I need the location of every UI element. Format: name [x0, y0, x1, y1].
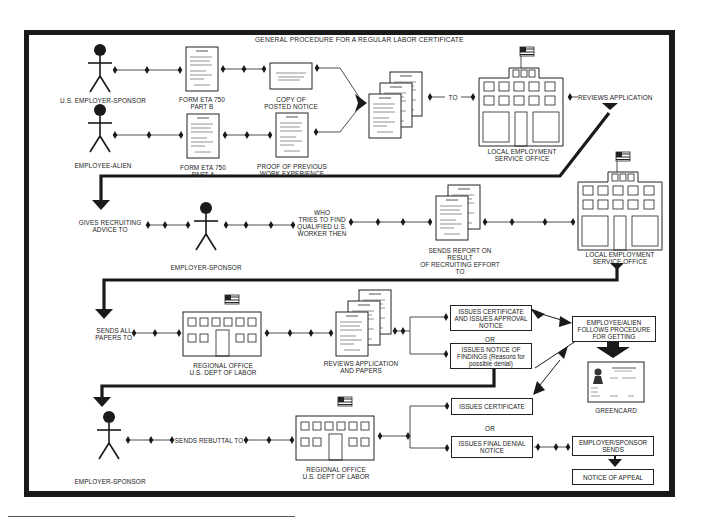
row2-local-office-icon	[578, 172, 662, 250]
greencard-icon	[588, 362, 644, 402]
posted-notice-icon	[270, 63, 312, 89]
gives-advice-label: GIVES RECRUITINGADVICE TO	[74, 219, 146, 233]
notice-of-appeal-box: NOTICE OF APPEAL	[572, 469, 654, 485]
issues-certificate-approval-box: ISSUES CERTIFICATE AND ISSUES APPROVAL N…	[450, 305, 532, 331]
row2-employer-sponsor-label: EMPLOYER-SPONSOR	[170, 264, 242, 271]
form-eta-750-part-a-icon	[187, 114, 219, 158]
form-a-label: FORM ETA 750PART A	[173, 164, 233, 178]
or-label-row3: OR	[478, 336, 502, 343]
sends-all-label: SENDS ALLPAPERS TO	[88, 327, 132, 341]
sends-rebuttal-label: SENDS REBUTTAL TO	[174, 437, 244, 444]
sends-report-label: SENDS REPORT ONRESULTOF RECRUITING EFFOR…	[420, 247, 500, 275]
row3-flag-icon	[225, 295, 239, 304]
row4-regional-office-icon	[296, 416, 374, 460]
reviews-papers-label: REVIEWS APPLICATIONAND PAPERS	[323, 360, 399, 374]
to-label: TO	[445, 94, 461, 101]
row4-employer-sponsor-icon	[97, 411, 121, 459]
application-packet-icon	[369, 72, 422, 138]
row2-flag-icon	[616, 152, 630, 161]
row4-regional-label: REGIONAL OFFICEU.S. DEPT OF LABOR	[297, 466, 375, 480]
down-arrow-icon	[596, 340, 630, 358]
who-tries-label: WHOTRIES TO FINDQUALIFIED U.S.WORKER THE…	[296, 209, 348, 237]
work-experience-proof-icon	[276, 113, 308, 157]
row1-employee-alien-icon	[88, 104, 112, 152]
issues-findings-box: ISSUES NOTICE OF FINDINGS (Reasons for p…	[450, 343, 532, 369]
greencard-label: GREENCARD	[590, 407, 642, 414]
reviews-application-label: REVIEWS APPLICATION	[578, 94, 658, 101]
row2-employer-sponsor-icon	[194, 202, 218, 250]
row1-flag-icon	[520, 47, 534, 56]
page-title: GENERAL PROCEDURE FOR A REGULAR LABOR CE…	[255, 36, 464, 43]
row1-office-label: LOCAL EMPLOYMENTSERVICE OFFICE	[484, 148, 560, 162]
work-experience-label: PROOF OF PREVIOUSWORK EXPERIENCE	[255, 163, 329, 177]
us-employer-sponsor-label: U.S. EMPLOYER-SPONSOR	[58, 97, 148, 104]
issues-certificate-box: ISSUES CERTIFICATE	[451, 398, 533, 415]
row2-office-label: LOCAL EMPLOYMENTSERVICE OFFICE	[582, 251, 658, 265]
page-rule	[8, 516, 295, 517]
row1-employer-sponsor-icon	[88, 44, 112, 92]
row3-regional-label: REGIONAL OFFICEU.S. DEPT OF LABOR	[184, 362, 262, 376]
or-label-row4: OR	[478, 425, 502, 432]
final-denial-box: ISSUES FINAL DENIAL NOTICE	[451, 436, 533, 458]
review-papers-icon	[336, 290, 391, 356]
form-eta-750-part-b-icon	[186, 47, 218, 91]
employee-alien-label: EMPLOYEE-ALIEN	[68, 162, 138, 169]
form-b-label: FORM ETA 750PART B	[172, 96, 232, 110]
recruiting-report-icon	[436, 185, 480, 240]
row1-local-office-icon	[479, 68, 563, 146]
row4-flag-icon	[338, 397, 352, 406]
posted-notice-label: COPY OFPOSTED NOTICE	[258, 96, 324, 110]
row3-regional-office-icon	[183, 312, 261, 356]
row4-employer-sponsor-label: EMPLOYER-SPONSOR	[73, 478, 147, 485]
employee-follows-box: EMPLOYEE/ALIEN FOLLOWS PROCEDURE FOR GET…	[572, 316, 656, 342]
sponsor-sends-box: EMPLOYER/SPONSOR SENDS	[572, 436, 654, 456]
